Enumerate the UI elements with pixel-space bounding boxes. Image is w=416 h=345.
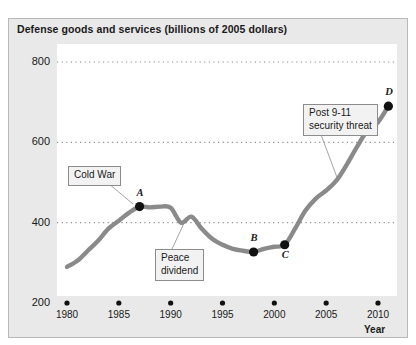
x-axis-tick-dot <box>375 300 380 305</box>
x-axis-tick-label: 1990 <box>149 309 193 320</box>
data-point-label-d: D <box>385 86 393 97</box>
x-axis-tick-dot <box>168 300 173 305</box>
x-axis-tick-dot <box>272 300 277 305</box>
x-axis-tick-marks <box>64 300 380 305</box>
data-point-label-c: C <box>282 249 289 260</box>
gridlines <box>57 62 397 223</box>
x-axis-tick-label: 1980 <box>45 309 89 320</box>
y-axis-tick-label: 200 <box>16 296 50 308</box>
data-point-marker-d <box>384 102 393 111</box>
data-point-label-b: B <box>251 232 258 243</box>
annotation-peace-dividend: Peace dividend <box>155 249 204 281</box>
x-axis-tick-label: 2010 <box>356 309 400 320</box>
y-axis-tick-label: 800 <box>16 55 50 67</box>
x-axis-tick-label: 2005 <box>304 309 348 320</box>
x-axis-tick-label: 1995 <box>201 309 245 320</box>
x-axis-tick-label: 1985 <box>97 309 141 320</box>
data-point-marker-b <box>249 247 258 256</box>
chart-figure: Defense goods and services (billions of … <box>0 0 416 345</box>
data-point-label-a: A <box>137 187 144 198</box>
y-axis-tick-label: 600 <box>16 135 50 147</box>
leader-line-post-911 <box>320 132 338 180</box>
x-axis-tick-dot <box>64 300 69 305</box>
chart-graphics <box>0 0 416 345</box>
y-axis-tick-label: 400 <box>16 216 50 228</box>
data-point-marker-a <box>135 202 144 211</box>
x-axis-title: Year <box>364 324 385 335</box>
annotation-post-911: Post 9-11 security threat <box>303 104 378 136</box>
x-axis-tick-dot <box>324 300 329 305</box>
leader-line-cold-war <box>108 183 133 204</box>
x-axis-tick-dot <box>116 300 121 305</box>
annotation-cold-war: Cold War <box>68 166 121 186</box>
x-axis-tick-dot <box>220 300 225 305</box>
x-axis-tick-label: 2000 <box>252 309 296 320</box>
